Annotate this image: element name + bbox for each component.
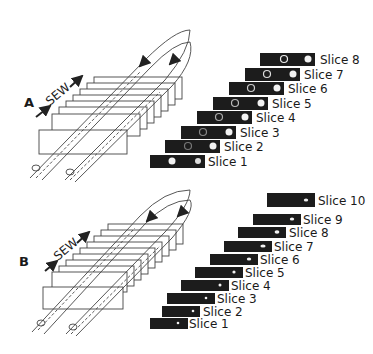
svg-text:Slice 10: Slice 10	[318, 194, 365, 208]
svg-text:Slice 5: Slice 5	[272, 97, 312, 111]
slice-a-6: Slice 6	[229, 82, 328, 96]
panel-a: A SEW	[24, 30, 360, 182]
slice-b-7: Slice 7	[224, 240, 314, 254]
slice-a-4: Slice 4	[197, 111, 296, 125]
slice-b-3: Slice 3	[167, 292, 257, 306]
slice-b-5: Slice 5	[195, 266, 285, 280]
svg-text:Slice 9: Slice 9	[303, 213, 343, 227]
slice-b-9: Slice 9	[253, 213, 343, 227]
svg-text:Slice 5: Slice 5	[245, 266, 285, 280]
slice-a-8: Slice 8	[260, 53, 360, 67]
svg-text:Slice 3: Slice 3	[240, 126, 280, 140]
svg-text:Slice 8: Slice 8	[289, 226, 329, 240]
figure: A SEW	[0, 0, 373, 354]
svg-text:Slice 2: Slice 2	[203, 305, 243, 319]
slice-b-6: Slice 6	[210, 253, 300, 267]
svg-text:Slice 8: Slice 8	[320, 53, 360, 67]
svg-text:Slice 7: Slice 7	[274, 240, 314, 254]
svg-text:Slice 1: Slice 1	[189, 317, 229, 331]
slice-b-10: Slice 10	[267, 193, 365, 208]
panel-b-label: B	[19, 254, 29, 269]
slice-a-2: Slice 2	[165, 140, 264, 154]
svg-text:Slice 4: Slice 4	[231, 279, 271, 293]
svg-text:Slice 6: Slice 6	[288, 82, 328, 96]
svg-text:Slice 7: Slice 7	[304, 68, 344, 82]
svg-text:Slice 3: Slice 3	[217, 292, 257, 306]
panel-a-label: A	[24, 95, 34, 110]
slice-a-3: Slice 3	[181, 126, 280, 140]
slice-list-a: Slice 1 Slice 2 Slice 3 Slice 4 Slice 5 …	[150, 53, 360, 169]
slice-list-b: Slice 1 Slice 2 Slice 3 Slice 4 Slice 5 …	[150, 193, 365, 331]
slice-a-1: Slice 1	[150, 155, 248, 169]
slice-b-4: Slice 4	[181, 279, 271, 293]
svg-text:Slice 2: Slice 2	[224, 140, 264, 154]
svg-text:Slice 1: Slice 1	[208, 155, 248, 169]
panel-b: B SEW	[19, 190, 365, 336]
slice-b-8: Slice 8	[238, 226, 329, 240]
svg-text:Slice 6: Slice 6	[260, 253, 300, 267]
brain-slab-stack-b	[43, 224, 183, 309]
svg-text:Slice 4: Slice 4	[256, 111, 296, 125]
slice-b-2: Slice 2	[162, 305, 243, 319]
slice-b-1: Slice 1	[150, 317, 229, 331]
slice-a-5: Slice 5	[213, 97, 312, 111]
slice-a-7: Slice 7	[245, 68, 344, 82]
